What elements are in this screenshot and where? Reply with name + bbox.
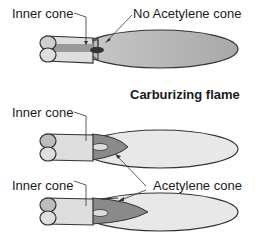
label-inner-cone-bottom: Inner cone bbox=[12, 179, 73, 192]
label-acetylene-cone: Acetylene cone bbox=[153, 179, 242, 192]
neutral-flame bbox=[40, 13, 238, 68]
inner-cone bbox=[90, 47, 104, 53]
label-inner-cone-top: Inner cone bbox=[12, 7, 73, 20]
section-title: Carburizing flame bbox=[130, 88, 240, 101]
carburizing-flame-1 bbox=[40, 112, 238, 168]
label-no-acetylene-cone: No Acetylene cone bbox=[133, 7, 241, 20]
outer-flame bbox=[82, 30, 238, 68]
flame-diagram bbox=[0, 0, 256, 249]
label-inner-cone-mid: Inner cone bbox=[12, 106, 73, 119]
inner-cone bbox=[92, 210, 108, 217]
inner-cone bbox=[92, 144, 108, 151]
